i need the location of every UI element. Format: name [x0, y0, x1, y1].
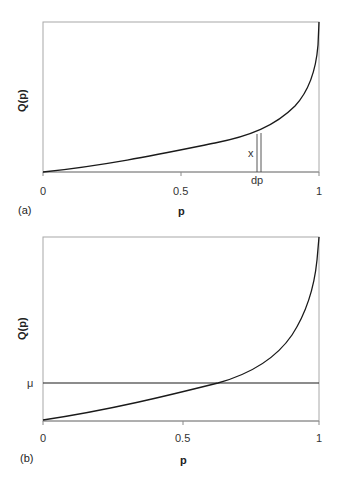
panel-a-annotation-x: x [248, 147, 254, 159]
panel-a-tick-label-mid: 0.5 [173, 185, 188, 197]
panel-a-x-label: p [178, 205, 185, 217]
panel-b: μ 0 0.5 1 p (b) Q(p) [16, 237, 322, 466]
panel-b-quantile-curve [43, 237, 319, 420]
figure: x dp 0 0.5 1 p (a) Q(p) μ 0 0.5 1 p (b) … [0, 0, 340, 485]
panel-a: x dp 0 0.5 1 p (a) Q(p) [16, 22, 322, 217]
panel-a-tick-label-1: 1 [316, 185, 322, 197]
panel-a-label: (a) [18, 204, 31, 216]
panel-b-y-label: Q(p) [16, 317, 28, 340]
panel-b-tick-label-1: 1 [316, 432, 322, 444]
panel-a-annotation-dp: dp [251, 174, 263, 186]
panel-a-quantile-curve [43, 22, 319, 172]
panel-b-tick-label-mid: 0.5 [175, 432, 190, 444]
panel-b-label: (b) [20, 452, 33, 464]
panel-a-y-label: Q(p) [16, 89, 28, 112]
panel-b-x-label: p [180, 454, 187, 466]
panel-b-tick-label-0: 0 [40, 432, 46, 444]
panel-b-mu-label: μ [27, 377, 33, 389]
panel-b-frame [43, 237, 319, 421]
panel-a-tick-label-0: 0 [40, 185, 46, 197]
